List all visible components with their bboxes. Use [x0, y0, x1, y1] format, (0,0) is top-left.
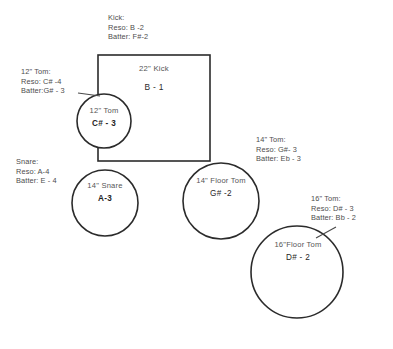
- floor-tom14-drum-note: G# -2: [176, 186, 266, 201]
- callout-tom14-reso: Reso: G#- 3: [256, 145, 301, 155]
- callout-tom14: 14" Tom: Reso: G#- 3 Batter: Eb - 3: [256, 135, 301, 164]
- callout-tom12-batter: Batter:G# - 3: [21, 86, 65, 96]
- callout-tom12-reso: Reso: C# -4: [21, 77, 65, 87]
- tom12-drum-label: 12" Tom C# - 3: [64, 105, 144, 131]
- callout-snare: Snare: Reso: A-4 Batter: E - 4: [16, 157, 57, 186]
- callout-snare-head: Snare:: [16, 157, 57, 167]
- snare-drum-label: 14" Snare A-3: [62, 180, 148, 206]
- callout-tom14-head: 14" Tom:: [256, 135, 301, 145]
- kick-drum-label: 22" Kick B - 1: [98, 63, 210, 100]
- tom12-drum-size: 12" Tom: [64, 105, 144, 116]
- callout-snare-batter: Batter: E - 4: [16, 176, 57, 186]
- floor-tom16-drum-note: D# - 2: [252, 250, 344, 265]
- tom12-drum-note: C# - 3: [64, 116, 144, 131]
- kick-drum-note: B - 1: [98, 74, 210, 100]
- callout-tom14-batter: Batter: Eb - 3: [256, 154, 301, 164]
- snare-drum-note: A-3: [62, 191, 148, 206]
- callout-tom12-head: 12" Tom:: [21, 67, 65, 77]
- callout-tom16-batter: Batter: Bb - 2: [311, 213, 356, 223]
- callout-tom12: 12" Tom: Reso: C# -4 Batter:G# - 3: [21, 67, 65, 96]
- floor-tom14-drum-size: 14" Floor Tom: [176, 175, 266, 186]
- kick-drum-size: 22" Kick: [98, 63, 210, 74]
- callout-tom16: 16" Tom: Reso: D# - 3 Batter: Bb - 2: [311, 194, 356, 223]
- callout-kick-reso: Reso: B -2: [108, 23, 148, 33]
- callout-tom16-reso: Reso: D# - 3: [311, 204, 356, 214]
- callout-kick: Kick: Reso: B -2 Batter: F#-2: [108, 13, 148, 42]
- callout-snare-reso: Reso: A-4: [16, 167, 57, 177]
- snare-drum-size: 14" Snare: [62, 180, 148, 191]
- floor-tom14-drum-label: 14" Floor Tom G# -2: [176, 175, 266, 201]
- callout-tom16-head: 16" Tom:: [311, 194, 356, 204]
- floor-tom16-drum-size: 16"Floor Tom: [252, 239, 344, 250]
- callout-kick-head: Kick:: [108, 13, 148, 23]
- callout-kick-batter: Batter: F#-2: [108, 32, 148, 42]
- drum-kit-diagram: Kick: Reso: B -2 Batter: F#-2 12" Tom: R…: [0, 0, 393, 349]
- floor-tom16-drum-label: 16"Floor Tom D# - 2: [252, 239, 344, 265]
